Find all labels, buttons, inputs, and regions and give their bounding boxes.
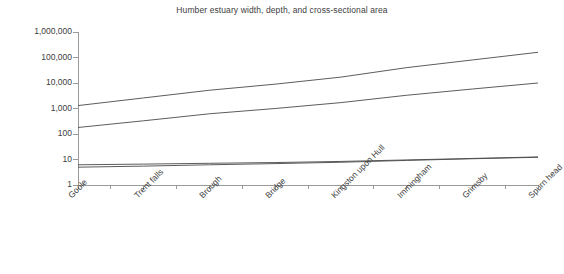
x-axis-tick-label: Grimsby: [460, 171, 489, 200]
x-axis-tick-label: Goole: [66, 177, 89, 200]
y-axis-tick: [73, 108, 78, 109]
y-axis-tick: [73, 83, 78, 84]
y-axis-tick: [73, 57, 78, 58]
x-axis-tick-label: Trent falls: [132, 167, 165, 200]
x-axis-tick-label: Brough: [197, 174, 223, 200]
x-axis-tick-label: Bridge: [263, 176, 287, 200]
y-axis-tick: [73, 159, 78, 160]
x-axis-tick-label: Immingham: [395, 162, 433, 200]
y-axis-tick: [73, 32, 78, 33]
y-axis-tick: [73, 134, 78, 135]
x-axis-tick-label: Kingston upon Hull: [329, 143, 387, 201]
chart-container: Humber estuary width, depth, and cross-s…: [0, 0, 564, 274]
x-axis-tick-label: Spurn head: [526, 162, 564, 200]
y-axis-tick: [73, 185, 78, 186]
x-axis-labels: GooleTrent fallsBroughBridgeKingston upo…: [0, 0, 564, 274]
